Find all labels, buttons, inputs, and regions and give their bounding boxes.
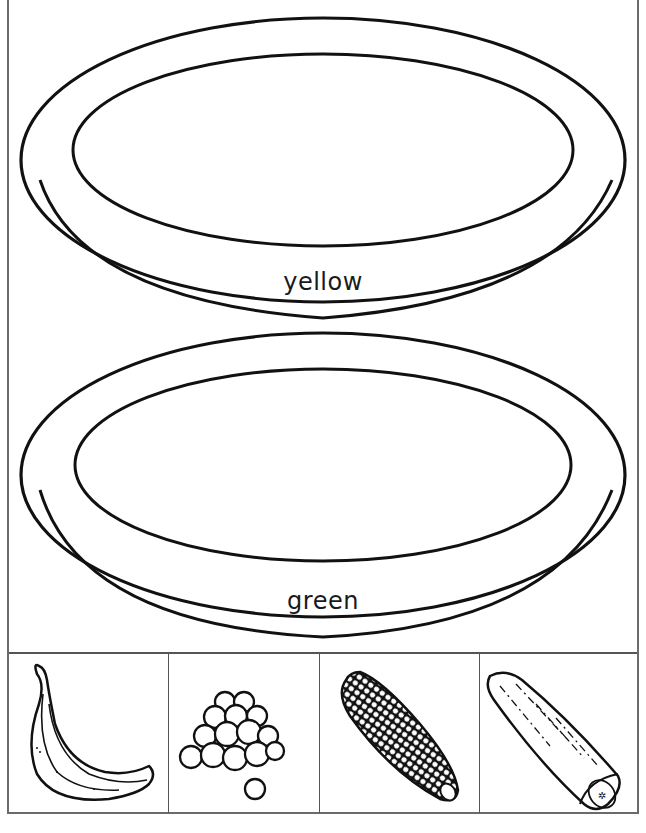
food-card-corn[interactable] (319, 654, 479, 813)
svg-text:✲: ✲ (598, 790, 606, 801)
plate-yellow[interactable]: yellow (0, 0, 646, 330)
corn-icon (320, 654, 480, 814)
cucumber-icon: ✲ (480, 654, 636, 814)
food-card-banana[interactable] (9, 654, 168, 813)
food-card-cucumber[interactable]: ✲ (479, 654, 635, 813)
banana-icon (9, 654, 168, 814)
grapes-icon (169, 654, 320, 814)
plate-label-yellow: yellow (0, 268, 646, 296)
plate-green[interactable]: green (0, 325, 646, 645)
food-cards-grid: ✲ (9, 652, 637, 813)
plate-label-green: green (0, 587, 646, 615)
food-card-grapes[interactable] (168, 654, 319, 813)
